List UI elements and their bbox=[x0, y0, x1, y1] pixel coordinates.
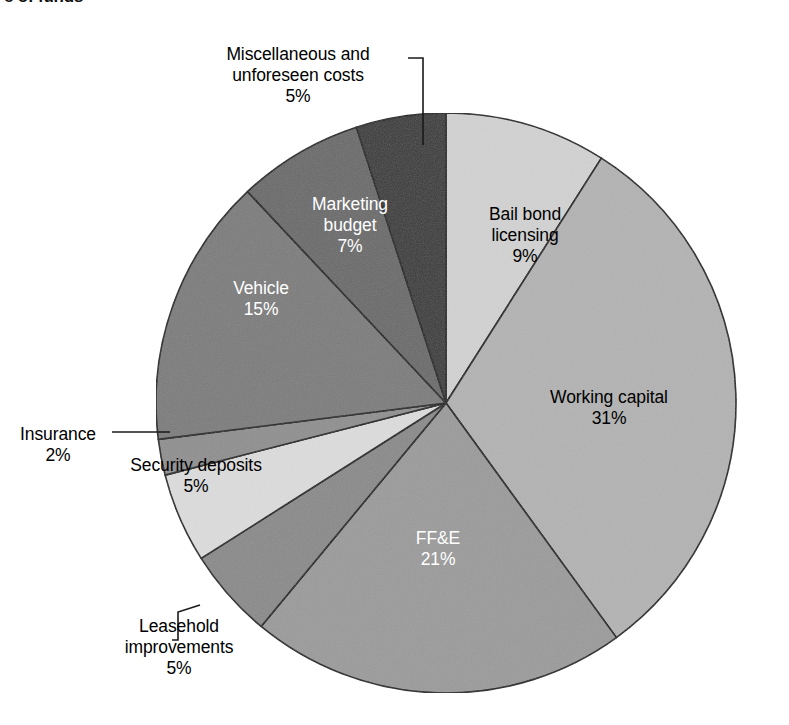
slice-value-bail-bond-licensing: 9% bbox=[466, 246, 584, 267]
slice-label-miscellaneous: Miscellaneous and unforeseen costs 5% bbox=[192, 44, 404, 107]
slice-label-leasehold-improvements-line2: improvements bbox=[90, 637, 268, 658]
slice-label-miscellaneous-line2: unforeseen costs bbox=[192, 65, 404, 86]
slice-label-vehicle: Vehicle 15% bbox=[190, 278, 332, 320]
slice-label-ffe: FF&E 21% bbox=[382, 528, 494, 570]
slice-value-ffe: 21% bbox=[382, 549, 494, 570]
slice-value-vehicle: 15% bbox=[190, 299, 332, 320]
slice-value-working-capital: 31% bbox=[530, 408, 688, 429]
slice-label-leasehold-improvements-line1: Leasehold bbox=[90, 616, 268, 637]
slice-label-marketing-budget-line2: budget bbox=[286, 215, 414, 236]
slice-label-bail-bond-licensing: Bail bond licensing 9% bbox=[466, 204, 584, 267]
slice-label-vehicle-line1: Vehicle bbox=[190, 278, 332, 299]
slice-label-security-deposits-line1: Security deposits bbox=[106, 455, 286, 476]
slice-value-security-deposits: 5% bbox=[106, 476, 286, 497]
slice-label-working-capital: Working capital 31% bbox=[530, 387, 688, 429]
pie-chart-figure: Miscellaneous and unforeseen costs 5% Ma… bbox=[0, 0, 789, 725]
slice-label-miscellaneous-line1: Miscellaneous and bbox=[192, 44, 404, 65]
slice-value-miscellaneous: 5% bbox=[192, 86, 404, 107]
slice-label-ffe-line1: FF&E bbox=[382, 528, 494, 549]
slice-label-security-deposits: Security deposits 5% bbox=[106, 455, 286, 497]
slice-label-insurance-line1: Insurance bbox=[6, 424, 110, 445]
slice-label-insurance: Insurance 2% bbox=[6, 424, 110, 466]
slice-label-leasehold-improvements: Leasehold improvements 5% bbox=[90, 616, 268, 679]
slice-label-marketing-budget: Marketing budget 7% bbox=[286, 194, 414, 257]
slice-label-bail-bond-licensing-line2: licensing bbox=[466, 225, 584, 246]
slice-value-leasehold-improvements: 5% bbox=[90, 658, 268, 679]
slice-label-working-capital-line1: Working capital bbox=[530, 387, 688, 408]
slice-value-insurance: 2% bbox=[6, 445, 110, 466]
slice-value-marketing-budget: 7% bbox=[286, 236, 414, 257]
slice-label-bail-bond-licensing-line1: Bail bond bbox=[466, 204, 584, 225]
slice-label-marketing-budget-line1: Marketing bbox=[286, 194, 414, 215]
